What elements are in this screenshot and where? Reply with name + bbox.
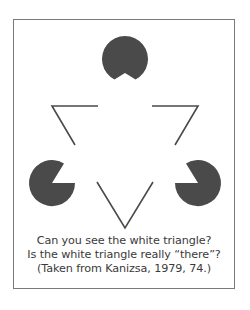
bottom-v-line: [97, 182, 153, 228]
top-pacman-inducer: [102, 36, 148, 79]
caption-line-1: Can you see the white triangle?: [13, 234, 235, 248]
top-right-angle-line: [152, 106, 198, 145]
left-pacman-inducer: [29, 160, 75, 206]
top-left-angle-line: [52, 106, 98, 145]
right-pacman-inducer: [175, 160, 221, 206]
caption-line-2: Is the white triangle really “there”?: [13, 248, 235, 262]
figure-caption: Can you see the white triangle? Is the w…: [13, 234, 235, 276]
caption-line-3: (Taken from Kanizsa, 1979, 74.): [13, 262, 235, 276]
